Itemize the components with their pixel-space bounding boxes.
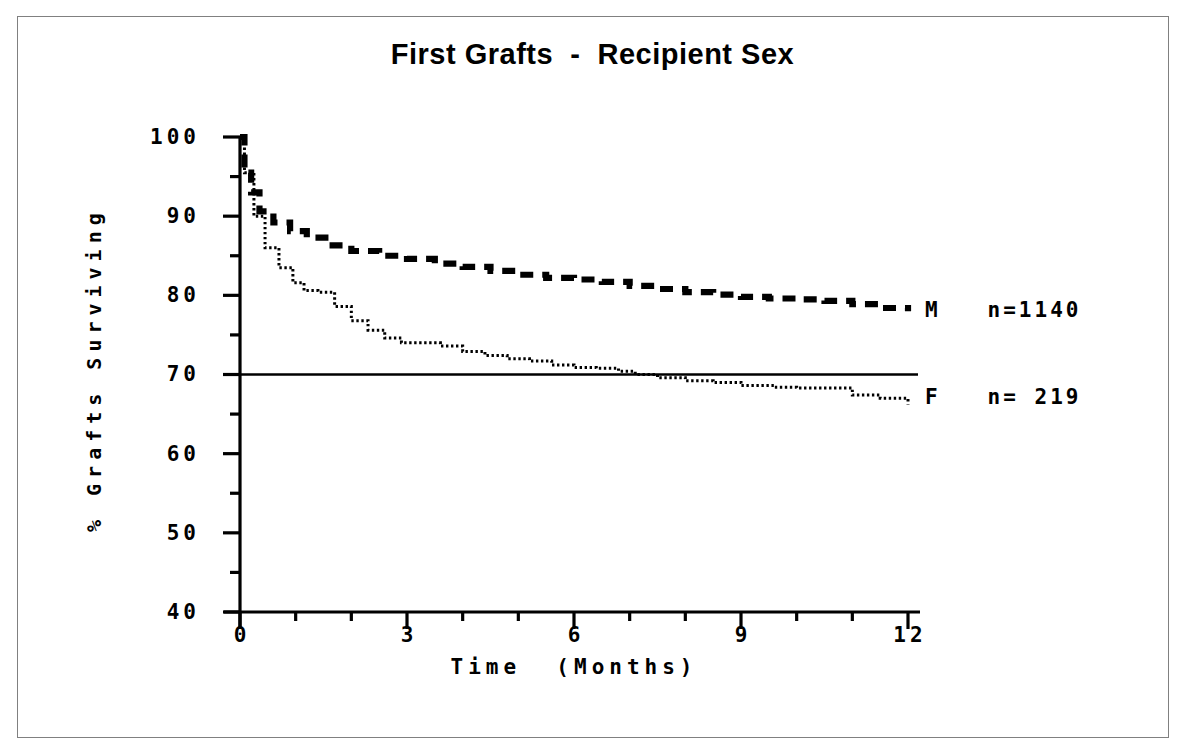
y-tick-label-100: 100 bbox=[90, 125, 200, 149]
tick-marks bbox=[223, 137, 908, 629]
y-axis-title: % Grafts Surviving bbox=[82, 232, 106, 532]
x-tick-label-12: 12 bbox=[874, 623, 946, 647]
x-tick-label-3: 3 bbox=[379, 623, 439, 647]
y-tick-label-40: 40 bbox=[90, 600, 200, 624]
chart-page: First Grafts - Recipient Sex 100 90 80 7… bbox=[0, 0, 1185, 752]
y-tick-label-70: 70 bbox=[90, 362, 200, 386]
x-tick-label-9: 9 bbox=[713, 623, 773, 647]
y-tick-label-60: 60 bbox=[90, 442, 200, 466]
series-line-m bbox=[240, 137, 908, 311]
data-series-group bbox=[240, 137, 908, 405]
x-tick-label-6: 6 bbox=[546, 623, 606, 647]
y-tick-label-80: 80 bbox=[90, 283, 200, 307]
y-tick-label-50: 50 bbox=[90, 521, 200, 545]
series-line-f bbox=[240, 137, 908, 405]
y-tick-label-90: 90 bbox=[90, 204, 200, 228]
legend-entry-female: F n= 219 bbox=[925, 385, 1081, 409]
x-axis-title: Time (Months) bbox=[240, 655, 908, 679]
legend-entry-male: M n=1140 bbox=[925, 298, 1081, 322]
x-tick-label-0: 0 bbox=[212, 623, 272, 647]
